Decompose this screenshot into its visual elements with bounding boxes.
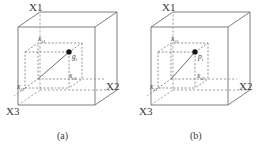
coord-label-a-x-i3: xi3: [16, 82, 25, 92]
axis-label-x2: X2: [239, 80, 252, 92]
axis-label-x1: X1: [162, 1, 175, 13]
cube-b-top-back-edges: [151, 12, 250, 27]
cube-a-top-back-edges: [18, 12, 117, 27]
axis-label-x3: X3: [139, 105, 153, 117]
figure-container: X1 X2 X3 xi1 xi2 xi3 gi (a): [0, 0, 265, 147]
cube-b-front-face: [151, 27, 228, 105]
point-label-b: pi: [197, 52, 204, 62]
inner-box-a-top-back-edges: [25, 43, 82, 52]
coord-label-b-x-i3: xi3: [149, 82, 158, 92]
cube-a-front-face: [18, 27, 95, 105]
axis-label-x1: X1: [29, 1, 42, 13]
inner-box-b-top-back-edges: [158, 43, 208, 52]
panel-a: X1 X2 X3 xi1 xi2 xi3 gi (a): [0, 0, 132, 147]
coord-label-b-x-i2: xi2: [196, 71, 205, 81]
panel-a-caption: (a): [57, 130, 68, 142]
point-marker-a: [66, 49, 71, 54]
panel-b: X1 X2 X3 xi1 xi2 xi3 pi (b): [133, 0, 265, 147]
point-label-a: gi: [72, 52, 78, 62]
coord-label-b-x-i1: xi1: [170, 34, 178, 44]
axis-label-x2: X2: [106, 80, 119, 92]
coord-label-a-x-i2: xi2: [68, 71, 77, 81]
panel-b-diagram: X1 X2 X3 xi1 xi2 xi3 pi (b): [133, 0, 265, 147]
coord-label-a-x-i1: xi1: [37, 34, 45, 44]
vector-b-origin-to-point: [171, 52, 195, 79]
panel-a-diagram: X1 X2 X3 xi1 xi2 xi3 gi (a): [0, 0, 132, 147]
inner-box-b-front-face: [158, 52, 195, 88]
cube-a-hidden-edges: [18, 12, 117, 105]
point-marker-b: [192, 49, 197, 54]
panel-b-caption: (b): [190, 130, 202, 142]
vector-a-origin-to-point: [38, 52, 69, 79]
axis-label-x3: X3: [6, 105, 20, 117]
